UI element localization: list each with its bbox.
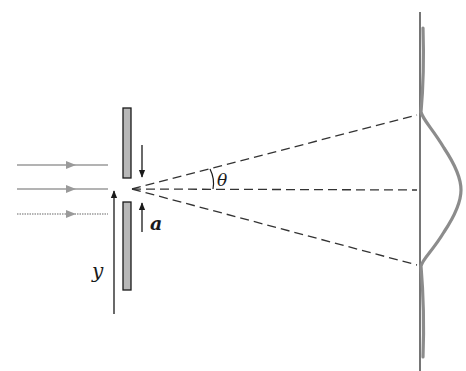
diffraction-diagram: a y θ xyxy=(0,0,466,371)
intensity-curve xyxy=(421,28,461,357)
incident-rays xyxy=(17,161,108,218)
diffracted-rays xyxy=(132,115,417,265)
angle-indicator: θ xyxy=(210,169,227,190)
dashed-ray-lower xyxy=(132,189,417,265)
y-axis-label: y xyxy=(91,259,104,283)
incident-ray-top-arrow-icon xyxy=(66,161,76,169)
dashed-ray-center xyxy=(132,189,417,190)
dashed-ray-upper xyxy=(132,115,417,189)
slit-barrier xyxy=(123,108,131,290)
incident-ray-middle-arrow-icon xyxy=(66,185,76,193)
slit-width-label: a xyxy=(150,212,162,234)
slit-plate-lower xyxy=(123,202,131,290)
angle-label: θ xyxy=(217,170,227,190)
angle-arc xyxy=(210,169,214,189)
slit-plate-upper xyxy=(123,108,131,178)
y-axis-indicator: y xyxy=(91,191,114,314)
incident-ray-bottom-arrow-icon xyxy=(66,210,76,218)
